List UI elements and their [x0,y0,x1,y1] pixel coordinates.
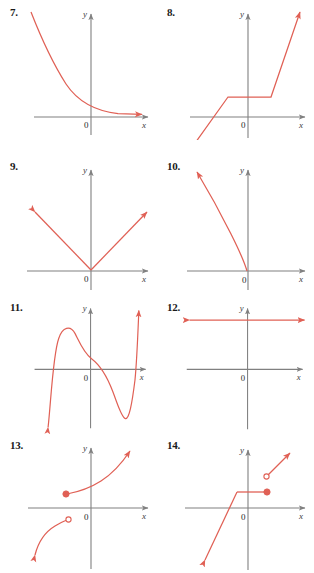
x-axis-label: x [296,372,301,382]
y-axis-label: y [82,303,87,313]
origin-label: 0 [84,274,89,284]
y-axis-label: y [239,165,244,175]
origin-label: 0 [241,120,246,130]
curve-v-left-branch [35,212,91,270]
x-axis-label: x [141,274,146,284]
curve-upper-branch [67,451,130,494]
curve-lower-branch [35,520,67,555]
curve-piecewise-step [193,12,300,140]
worksheet-page: 7. x y 0 8. [0,0,314,573]
x-axis-label: x [298,511,303,521]
x-axis-label: x [298,120,303,130]
filled-dot-endpoint [63,491,69,497]
x-axis-label: x [141,511,146,521]
panel-8: 8. x y 0 [157,0,314,140]
curve-upper-ray [268,453,290,475]
panel-9-plot: x y 0 [0,154,157,294]
x-axis-label: x [141,120,146,130]
x-axis-label: x [298,274,303,284]
panel-7: 7. x y 0 [0,0,157,140]
panel-12: 12. x y 0 [157,295,314,435]
panel-10-plot: x y 0 [157,154,314,294]
panel-8-plot: x y 0 [157,0,314,140]
x-axis-label: x [139,372,144,382]
panel-11-plot: x y 0 [0,295,157,435]
filled-dot-endpoint [264,489,270,495]
panel-14-plot: x y 0 [157,433,314,573]
y-axis-label: y [82,443,87,453]
origin-label: 0 [84,373,88,383]
curve-steep-exponential-decay [197,172,247,271]
open-circle-endpoint [66,517,71,522]
curve-rising-ray [205,492,237,560]
open-circle-endpoint [264,474,269,479]
curve-exponential-decay [31,12,142,114]
panel-11: 11. x y 0 [0,295,157,435]
panel-12-plot: x y 0 [157,295,314,435]
origin-label: 0 [241,373,245,383]
origin-label: 0 [242,275,247,285]
panel-13: 13. x y 0 [0,433,157,573]
y-axis-label: y [82,9,87,19]
panel-14: 14. x y 0 [157,433,314,573]
origin-label: 0 [84,512,89,522]
origin-label: 0 [84,120,89,130]
panel-10: 10. x y 0 [157,154,314,294]
panel-13-plot: x y 0 [0,433,157,573]
y-axis-label: y [239,9,244,19]
panel-9: 9. x y 0 [0,154,157,294]
origin-label: 0 [241,512,246,522]
panel-7-plot: x y 0 [0,0,157,140]
y-axis-label: y [239,303,244,313]
curve-v-right-branch [91,212,147,270]
y-axis-label: y [239,445,244,455]
y-axis-label: y [82,165,87,175]
